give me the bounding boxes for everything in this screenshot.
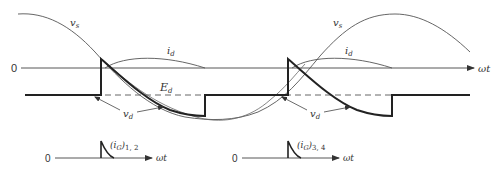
vd-pointer-right-b [324, 107, 350, 112]
vd-pointer-left-a [95, 97, 120, 110]
id-label-left: id [167, 45, 175, 58]
converter-waveform-diagram: 0 ωt vs vs id id Ed vd vd 0 ωt (iG)1, 2 … [0, 0, 504, 172]
vd-label-left: vd [123, 108, 134, 121]
id-curve-left [105, 58, 205, 68]
id-curve-right [292, 58, 392, 68]
zero-label: 0 [45, 153, 51, 164]
vd-pointer-left-b [137, 107, 163, 112]
vs-label-left: vs [70, 17, 80, 30]
zero-label: 0 [232, 153, 238, 164]
gate-current-plot-3-4: 0 ωt (iG)3, 4 [232, 140, 354, 164]
omega-t-label: ωt [478, 63, 491, 74]
zero-label: 0 [11, 62, 17, 74]
vd-label-right: vd [310, 108, 321, 121]
id-label-right: id [345, 45, 353, 58]
omega-t-label: ωt [156, 153, 167, 163]
ig-label: (iG)1, 2 [110, 140, 138, 152]
vs-curve [18, 14, 470, 120]
omega-t-label: ωt [343, 153, 354, 163]
vs-label-right: vs [333, 17, 343, 30]
vd-pointer-right-a [282, 97, 307, 110]
ig-label: (iG)3, 4 [297, 140, 326, 152]
gate-current-plot-1-2: 0 ωt (iG)1, 2 [45, 140, 167, 164]
ed-label: Ed [159, 81, 173, 95]
